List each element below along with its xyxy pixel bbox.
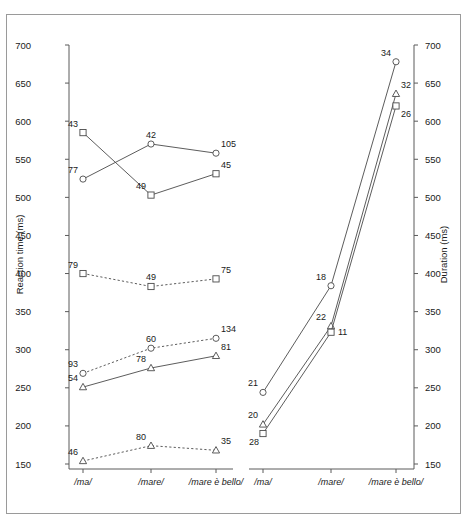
data-point-label: 75: [221, 265, 231, 275]
y-tick-label: 550: [425, 154, 441, 165]
data-point-label: 21: [248, 378, 258, 388]
y-tick-label: 600: [15, 116, 31, 127]
y-tick-label: 200: [425, 420, 441, 431]
x-category-label: /ma/: [253, 477, 273, 487]
data-point-label: 49: [136, 181, 146, 191]
x-category-label: /ma/: [73, 477, 93, 487]
data-point-label: 20: [248, 410, 258, 420]
marker-circle: [393, 59, 399, 65]
marker-circle: [260, 389, 266, 395]
marker-circle: [148, 345, 154, 351]
data-point-label: 46: [68, 447, 78, 457]
y-tick-label: 650: [15, 78, 31, 89]
data-point-label: 105: [221, 139, 236, 149]
marker-square: [213, 171, 219, 177]
marker-circle: [328, 283, 334, 289]
data-point-label: 81: [221, 342, 231, 352]
y-tick-label: 200: [15, 420, 31, 431]
marker-circle: [80, 176, 86, 182]
marker-square: [260, 430, 266, 436]
data-point-label: 49: [146, 272, 156, 282]
marker-triangle: [392, 90, 399, 96]
y-tick-label: 300: [425, 344, 441, 355]
y-tick-label: 600: [425, 116, 441, 127]
panel-right: 150200250300350400450500550600650700Dura…: [248, 40, 449, 488]
data-point-label: 35: [221, 436, 231, 446]
data-point-label: 42: [146, 130, 156, 140]
marker-circle: [213, 335, 219, 341]
y-tick-label: 350: [15, 306, 31, 317]
marker-square: [328, 329, 334, 335]
y-tick-label: 150: [15, 459, 31, 470]
marker-square: [393, 103, 399, 109]
marker-circle: [80, 370, 86, 376]
series-line-square-solid: [263, 106, 396, 434]
data-point-label: 80: [136, 432, 146, 442]
data-point-label: 18: [316, 272, 326, 282]
series-line-triangle-solid: [263, 94, 396, 425]
data-point-label: 77: [68, 165, 78, 175]
marker-triangle: [259, 421, 266, 427]
data-point-label: 93: [68, 359, 78, 369]
marker-circle: [213, 150, 219, 156]
panel-left: 150200250300350400450500550600650700Reac…: [14, 40, 245, 488]
y-axis-title-left: Reaction time (ms): [14, 215, 25, 295]
x-category-label: /mare è bello/: [368, 477, 425, 487]
x-category-label: /mare/: [137, 477, 165, 487]
series-line-circle-solid: [83, 144, 216, 179]
marker-triangle: [212, 352, 219, 358]
data-point-label: 22: [316, 312, 326, 322]
y-axis-title-right: Duration (ms): [438, 226, 449, 284]
y-tick-label: 700: [15, 40, 31, 51]
marker-triangle: [147, 442, 154, 448]
y-tick-label: 150: [425, 459, 441, 470]
series-line-triangle-solid: [83, 356, 216, 387]
data-point-label: 60: [146, 334, 156, 344]
marker-square: [80, 130, 86, 136]
data-point-label: 79: [68, 260, 78, 270]
y-tick-label: 650: [425, 78, 441, 89]
y-tick-label: 500: [15, 192, 31, 203]
data-point-label: 11: [338, 327, 347, 337]
y-tick-label: 300: [15, 344, 31, 355]
y-tick-label: 500: [425, 192, 441, 203]
figure-container: 150200250300350400450500550600650700Reac…: [0, 0, 468, 526]
data-point-label: 45: [221, 160, 231, 170]
marker-square: [80, 270, 86, 276]
marker-triangle: [79, 457, 86, 463]
marker-square: [213, 276, 219, 282]
x-category-label: /mare/: [317, 477, 345, 487]
marker-square: [148, 192, 154, 198]
data-point-label: 54: [68, 373, 78, 383]
y-tick-label: 250: [425, 382, 441, 393]
data-point-label: 32: [401, 80, 411, 90]
data-point-label: 28: [249, 437, 259, 447]
chart-canvas: 150200250300350400450500550600650700Reac…: [7, 15, 460, 513]
marker-circle: [148, 141, 154, 147]
data-point-label: 26: [401, 109, 411, 119]
figure-frame: 150200250300350400450500550600650700Reac…: [6, 14, 461, 514]
y-tick-label: 550: [15, 154, 31, 165]
y-tick-label: 350: [425, 306, 441, 317]
data-point-label: 34: [381, 48, 391, 58]
y-tick-label: 700: [425, 40, 441, 51]
series-line-circle-solid: [263, 62, 396, 393]
data-point-label: 134: [221, 324, 236, 334]
data-point-label: 78: [136, 354, 146, 364]
marker-square: [148, 283, 154, 289]
x-category-label: /mare è bello/: [188, 477, 245, 487]
y-tick-label: 250: [15, 382, 31, 393]
data-point-label: 43: [68, 119, 78, 129]
